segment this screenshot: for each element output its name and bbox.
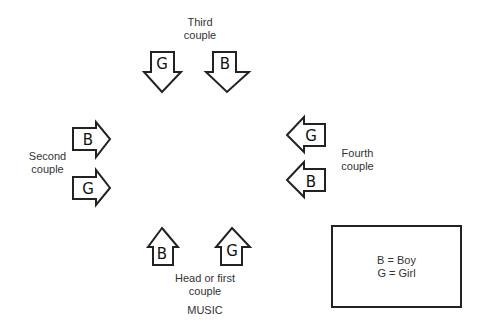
head-couple-girl-arrow: G — [216, 228, 250, 265]
label-line: Second — [20, 150, 75, 163]
third-couple-girl-arrow: G — [144, 52, 181, 92]
arrow-letter: G — [82, 180, 94, 198]
label-line: Third — [170, 16, 230, 29]
second-couple-label: Second couple — [20, 150, 75, 176]
arrow-letter: B — [220, 55, 230, 73]
legend-box: B = Boy G = Girl — [331, 225, 462, 308]
arrow-letter: G — [226, 242, 238, 260]
arrow-letter: G — [305, 127, 317, 145]
fourth-couple-girl-arrow: G — [287, 117, 325, 152]
third-couple-boy-arrow: B — [206, 52, 249, 92]
fourth-couple-label: Fourth couple — [330, 147, 385, 173]
label-line: couple — [165, 285, 245, 298]
legend-boy: B = Boy — [333, 254, 460, 267]
second-couple-boy-arrow: B — [73, 122, 110, 157]
legend-girl: G = Girl — [333, 267, 460, 280]
fourth-couple-boy-arrow: B — [287, 162, 325, 197]
label-line: Fourth — [330, 147, 385, 160]
arrow-letter: G — [156, 55, 168, 73]
label-line: couple — [330, 160, 385, 173]
head-couple-label: Head or first couple — [165, 272, 245, 298]
label-line: Head or first — [165, 272, 245, 285]
music-label: MUSIC — [175, 304, 235, 317]
arrow-letter: B — [157, 245, 167, 263]
legend-text: B = Boy G = Girl — [333, 254, 460, 280]
label-line: couple — [170, 29, 230, 42]
head-couple-boy-arrow: B — [148, 228, 178, 265]
third-couple-label: Third couple — [170, 16, 230, 42]
second-couple-girl-arrow: G — [73, 170, 110, 205]
arrow-letter: B — [83, 131, 93, 149]
label-line: couple — [20, 163, 75, 176]
arrow-letter: B — [306, 173, 316, 191]
